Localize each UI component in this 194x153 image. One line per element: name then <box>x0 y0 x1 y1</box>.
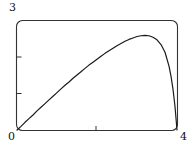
y-axis-max-label: 3 <box>9 2 16 13</box>
chart-figure: 3 0 4 <box>0 0 194 153</box>
data-curve <box>17 35 177 130</box>
plot-canvas <box>0 0 194 153</box>
x-axis-max-label: 4 <box>180 131 187 142</box>
origin-label: 0 <box>8 131 15 142</box>
